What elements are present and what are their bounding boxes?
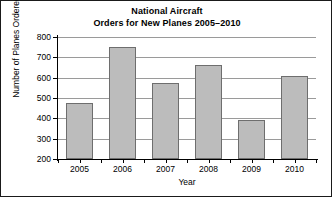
bar-2005 xyxy=(66,103,93,159)
x-tick-label-2010: 2010 xyxy=(285,164,304,174)
y-tick-label: 300 xyxy=(37,134,51,144)
bar-2007 xyxy=(152,83,179,159)
chart-title: National Aircraft Orders for New Planes … xyxy=(1,5,332,29)
x-tick-boundary xyxy=(316,159,317,163)
x-tick-mark xyxy=(252,159,253,163)
bar-2009 xyxy=(238,120,265,159)
chart-figure: National Aircraft Orders for New Planes … xyxy=(0,0,332,197)
bar-2010 xyxy=(281,76,308,159)
bar-2006 xyxy=(109,47,136,159)
x-tick-boundary xyxy=(273,159,274,163)
y-tick-label: 200 xyxy=(37,154,51,164)
x-tick-mark xyxy=(80,159,81,163)
x-tick-label-2009: 2009 xyxy=(242,164,261,174)
x-tick-boundary xyxy=(230,159,231,163)
plot-inner: 800700600500400300200 200520062007200820… xyxy=(58,37,316,159)
x-axis-label: Year xyxy=(58,177,316,187)
x-tick-boundary xyxy=(144,159,145,163)
x-tick-boundary xyxy=(58,159,59,163)
y-tick-label: 700 xyxy=(37,52,51,62)
x-tick-boundary xyxy=(101,159,102,163)
x-tick-mark xyxy=(166,159,167,163)
y-tick-label: 500 xyxy=(37,93,51,103)
x-tick-mark xyxy=(295,159,296,163)
x-tick-boundary xyxy=(187,159,188,163)
y-tick-label: 800 xyxy=(37,32,51,42)
x-tick-mark xyxy=(209,159,210,163)
bar-2008 xyxy=(195,65,222,159)
chart-title-line-1: National Aircraft xyxy=(1,5,332,17)
x-tick-mark xyxy=(123,159,124,163)
x-tick-label-2008: 2008 xyxy=(199,164,218,174)
plot-area: 800700600500400300200 200520062007200820… xyxy=(58,37,316,159)
x-tick-label-2006: 2006 xyxy=(113,164,132,174)
y-tick-label: 600 xyxy=(37,73,51,83)
y-axis-label: Number of Planes Ordered xyxy=(11,0,21,109)
y-tick-label: 400 xyxy=(37,113,51,123)
bar-series xyxy=(58,37,316,159)
chart-title-line-2: Orders for New Planes 2005–2010 xyxy=(1,17,332,29)
x-tick-label-2005: 2005 xyxy=(70,164,89,174)
x-tick-label-2007: 2007 xyxy=(156,164,175,174)
